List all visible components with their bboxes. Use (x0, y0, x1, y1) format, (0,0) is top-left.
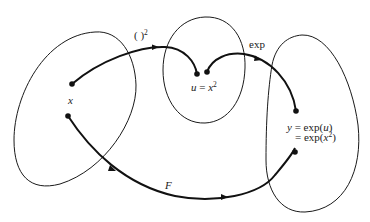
set-intermediate-u (163, 17, 245, 123)
set-domain-x (14, 32, 136, 186)
square-map-label: ( )2 (134, 28, 148, 42)
F-map-curve (68, 116, 295, 199)
point-u-left (194, 71, 200, 77)
x-label: x (67, 94, 73, 106)
square-map-curve (72, 47, 197, 84)
composition-diagram: ( )2 exp x u = x2 y = exp(u) = exp(x2) F (0, 0, 370, 222)
F-label: F (164, 179, 172, 191)
point-x-bottom (65, 113, 71, 119)
F-map-arrow-icon-2 (221, 194, 228, 200)
exp-map-curve (207, 54, 296, 111)
point-u-right (204, 69, 210, 75)
square-map-arrow-icon (152, 45, 159, 51)
point-y-bottom (292, 149, 298, 155)
point-x-top (69, 81, 75, 87)
exp-map-label: exp (249, 38, 265, 50)
point-y-top (293, 108, 299, 114)
u-equals-x-squared-label: u = x2 (191, 80, 217, 93)
equals-exp-x-squared-label: = exp(x2) (295, 130, 336, 144)
